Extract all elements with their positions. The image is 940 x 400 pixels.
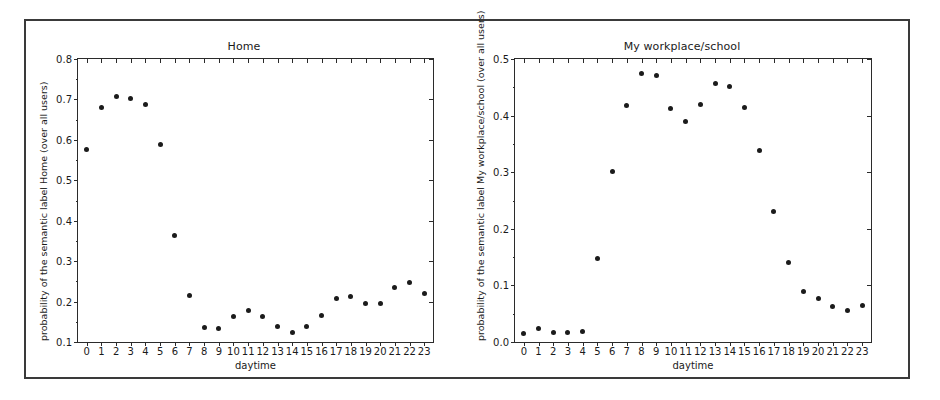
x-tick-top-home — [204, 59, 205, 63]
x-tick-top-work — [818, 59, 819, 63]
data-point — [757, 148, 762, 153]
plot-area-work: 0.00.10.20.30.40.50123456789101112131415… — [515, 59, 871, 342]
chart-panel-work: My workplace/school probability of the s… — [462, 19, 902, 379]
y-tick-label-home: 0.2 — [56, 296, 72, 307]
y-tick-right-work — [867, 229, 871, 230]
x-tick-label-home: 23 — [418, 346, 431, 357]
x-tick-label-work: 12 — [694, 346, 707, 357]
data-point — [801, 289, 806, 294]
x-tick-label-home: 19 — [359, 346, 372, 357]
data-point — [275, 324, 280, 329]
x-tick-top-home — [263, 59, 264, 63]
data-point — [378, 301, 383, 306]
x-tick-label-work: 9 — [653, 346, 659, 357]
y-minor-tick-home — [76, 241, 79, 242]
plot-axes-home: 0.10.20.30.40.50.60.70.80123456789101112… — [77, 58, 434, 343]
data-point — [771, 209, 776, 214]
x-tick-label-home: 1 — [98, 346, 104, 357]
y-tick-work — [511, 116, 515, 117]
x-tick-label-work: 14 — [723, 346, 736, 357]
y-minor-tick-home — [76, 281, 79, 282]
data-point — [816, 296, 821, 301]
y-tick-work — [511, 229, 515, 230]
x-tick-label-work: 8 — [638, 346, 644, 357]
y-tick-home — [74, 140, 78, 141]
y-tick-right-home — [429, 59, 433, 60]
x-tick-top-home — [116, 59, 117, 63]
plot-axes-work: 0.00.10.20.30.40.50123456789101112131415… — [514, 58, 872, 343]
x-tick-top-home — [380, 59, 381, 63]
data-point — [334, 296, 339, 301]
x-tick-top-work — [568, 59, 569, 63]
y-minor-tick-home — [76, 79, 79, 80]
x-tick-label-home: 2 — [113, 346, 119, 357]
x-tick-label-work: 20 — [812, 346, 825, 357]
plot-area-home: 0.10.20.30.40.50.60.70.80123456789101112… — [78, 59, 433, 342]
x-tick-label-work: 23 — [856, 346, 869, 357]
data-point — [727, 84, 732, 89]
data-point — [304, 324, 309, 329]
data-point — [536, 326, 541, 331]
x-tick-label-work: 0 — [521, 346, 527, 357]
data-point — [713, 81, 718, 86]
y-tick-work — [511, 59, 515, 60]
data-point — [202, 325, 207, 330]
data-point — [392, 285, 397, 290]
x-tick-top-home — [175, 59, 176, 63]
data-point — [551, 330, 556, 335]
x-tick-label-home: 0 — [84, 346, 90, 357]
x-tick-label-work: 7 — [624, 346, 630, 357]
x-tick-top-home — [410, 59, 411, 63]
x-tick-top-home — [278, 59, 279, 63]
data-point — [830, 304, 835, 309]
x-tick-top-work — [715, 59, 716, 63]
x-tick-label-home: 6 — [172, 346, 178, 357]
y-tick-home — [74, 221, 78, 222]
data-point — [786, 260, 791, 265]
data-point — [128, 96, 133, 101]
x-tick-top-work — [612, 59, 613, 63]
x-tick-top-home — [189, 59, 190, 63]
x-tick-top-work — [671, 59, 672, 63]
x-tick-label-home: 7 — [186, 346, 192, 357]
x-tick-label-home: 10 — [227, 346, 240, 357]
x-tick-top-home — [87, 59, 88, 63]
x-tick-top-work — [656, 59, 657, 63]
y-tick-right-home — [429, 342, 433, 343]
y-minor-tick-work — [513, 87, 516, 88]
y-tick-home — [74, 99, 78, 100]
x-tick-label-work: 18 — [782, 346, 795, 357]
data-point — [860, 303, 865, 308]
x-tick-label-work: 15 — [738, 346, 751, 357]
x-tick-label-home: 14 — [286, 346, 299, 357]
x-tick-top-work — [744, 59, 745, 63]
y-minor-tick-home — [76, 322, 79, 323]
y-minor-tick-work — [513, 314, 516, 315]
x-tick-top-home — [292, 59, 293, 63]
x-tick-top-work — [847, 59, 848, 63]
x-tick-label-work: 10 — [665, 346, 678, 357]
chart-title-work: My workplace/school — [462, 40, 902, 53]
x-tick-label-home: 3 — [128, 346, 134, 357]
data-point — [580, 329, 585, 334]
y-tick-right-home — [429, 99, 433, 100]
y-tick-work — [511, 342, 515, 343]
x-tick-label-home: 15 — [300, 346, 313, 357]
x-tick-top-home — [233, 59, 234, 63]
data-point — [260, 314, 265, 319]
data-point — [639, 71, 644, 76]
x-tick-top-work — [700, 59, 701, 63]
data-point — [422, 291, 427, 296]
x-tick-top-home — [424, 59, 425, 63]
x-tick-label-home: 4 — [142, 346, 148, 357]
data-point — [407, 280, 412, 285]
x-tick-label-home: 5 — [157, 346, 163, 357]
x-tick-label-work: 2 — [550, 346, 556, 357]
y-tick-label-work: 0.3 — [493, 167, 509, 178]
x-tick-label-home: 20 — [374, 346, 387, 357]
y-tick-right-home — [429, 302, 433, 303]
x-tick-top-home — [160, 59, 161, 63]
y-tick-right-work — [867, 172, 871, 173]
y-minor-tick-home — [76, 120, 79, 121]
x-tick-top-work — [524, 59, 525, 63]
